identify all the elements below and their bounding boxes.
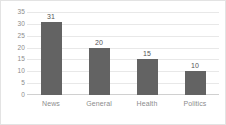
- x-axis-labels: News General Health Politics: [27, 100, 219, 114]
- x-axis-label-general: General: [75, 100, 123, 114]
- x-axis-label-politics: Politics: [171, 100, 219, 114]
- bar-general[interactable]: [89, 48, 110, 95]
- bar-series: 31 20 15 10: [27, 12, 219, 95]
- y-axis-tick: 20: [7, 44, 25, 51]
- bar-politics[interactable]: [185, 71, 206, 95]
- bar-health[interactable]: [137, 59, 158, 95]
- x-axis-label-health: Health: [123, 100, 171, 114]
- y-axis-tick: 15: [7, 56, 25, 63]
- bar-slot: 15: [123, 12, 171, 95]
- bar-slot: 10: [171, 12, 219, 95]
- bar-value-label: 10: [171, 62, 219, 69]
- plot-area: 35 30 25 20 15 10 5 0 31 20: [1, 1, 226, 125]
- bar-slot: 31: [27, 12, 75, 95]
- y-axis: 35 30 25 20 15 10 5 0: [7, 12, 25, 95]
- bar-chart-figure: 35 30 25 20 15 10 5 0 31 20: [0, 0, 226, 125]
- bar-slot: 20: [75, 12, 123, 95]
- x-axis-label-news: News: [27, 100, 75, 114]
- bar-value-label: 20: [75, 39, 123, 46]
- y-axis-tick: 30: [7, 21, 25, 28]
- bar-value-label: 15: [123, 50, 171, 57]
- bar-news[interactable]: [41, 22, 62, 96]
- y-axis-tick: 5: [7, 80, 25, 87]
- bar-value-label: 31: [27, 13, 75, 20]
- y-axis-tick: 25: [7, 32, 25, 39]
- y-axis-tick: 10: [7, 68, 25, 75]
- y-axis-tick: 0: [7, 92, 25, 99]
- y-axis-tick: 35: [7, 9, 25, 16]
